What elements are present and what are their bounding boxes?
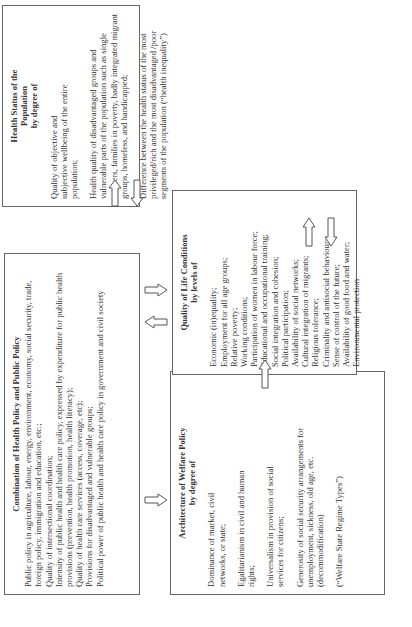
arrow-combination-to-health-icon bbox=[302, 217, 316, 247]
architecture-title-line: Architecture of Welfare Policy bbox=[177, 379, 187, 587]
qol-item: Social integration and cohesion; bbox=[270, 198, 280, 367]
qol-item: Employment for all age groups; bbox=[219, 198, 229, 367]
combination-title: Combination of Health Policy and Public … bbox=[11, 261, 21, 587]
qol-item: Educational and occupational training; bbox=[259, 198, 269, 367]
architecture-item: Dominance of market, civil networks, or … bbox=[206, 467, 226, 587]
architecture-item: Generosity of social security arrangemen… bbox=[295, 427, 326, 587]
arrow-quality-to-combination-icon bbox=[144, 283, 168, 297]
architecture-item: Egalitarianism in civil and human rights… bbox=[236, 467, 256, 587]
architecture-welfare-policy-box: Architecture of Welfare Policy by degree… bbox=[170, 371, 385, 595]
arrow-combination-to-quality-icon bbox=[144, 315, 168, 329]
health-status-title-line: Health Status of the bbox=[9, 13, 19, 199]
qol-item: Availability of social networks; bbox=[290, 198, 300, 367]
arrow-health-to-quality-icon bbox=[130, 179, 144, 207]
architecture-subtitle-line: by degree of bbox=[187, 379, 197, 587]
arrow-architecture-to-quality-icon bbox=[258, 359, 272, 389]
combination-item: Public policy in agriculture, labour, en… bbox=[23, 261, 43, 587]
combination-item: Quality of health care services (access,… bbox=[74, 261, 84, 587]
qol-item: Political participation; bbox=[280, 198, 290, 367]
arrow-quality-to-health-icon bbox=[108, 179, 122, 207]
health-status-box: Health Status of the Population by degre… bbox=[2, 5, 140, 207]
quality-of-life-subtitle-line: by levels of bbox=[189, 198, 199, 367]
qol-item: Economic (in)equality; bbox=[208, 198, 218, 367]
arrow-architecture-to-combination-icon bbox=[144, 493, 168, 507]
architecture-title: Architecture of Welfare Policy by degree… bbox=[177, 379, 197, 587]
combination-item: Quality of intersectional coordination; bbox=[44, 261, 54, 587]
qol-item: Participation of women in labour force; bbox=[249, 198, 259, 367]
qol-item: Relative poverty; bbox=[229, 198, 239, 367]
combination-policy-box: Combination of Health Policy and Public … bbox=[4, 253, 140, 595]
architecture-item: Universalism in provision of social serv… bbox=[265, 437, 285, 587]
health-status-title: Health Status of the Population by degre… bbox=[9, 13, 40, 199]
qol-item: Working conditions; bbox=[239, 198, 249, 367]
arrow-health-to-combination-icon bbox=[324, 217, 338, 247]
quality-of-life-title: Quality of Life Conditions by levels of bbox=[179, 198, 199, 367]
health-status-item: Health quality of disadvantaged groups a… bbox=[88, 13, 129, 199]
combination-item: Political power of public health and hea… bbox=[95, 261, 105, 587]
combination-item: Provisions for disadvantaged and vulnera… bbox=[84, 261, 94, 587]
welfare-health-diagram: Architecture of Welfare Policy by degree… bbox=[0, 0, 412, 627]
health-status-item: Quality of objective and subjective well… bbox=[49, 79, 80, 199]
health-status-subtitle-line: by degree of bbox=[29, 13, 39, 199]
health-status-title-line: Population bbox=[19, 13, 29, 199]
qol-item: Availability of good food and water; bbox=[341, 198, 351, 367]
combination-item: Intensity of public health and health ca… bbox=[54, 261, 74, 587]
quality-of-life-title-line: Quality of Life Conditions bbox=[179, 198, 189, 367]
health-status-item: Difference between the health status of … bbox=[138, 24, 169, 199]
qol-item: Environmental protection bbox=[351, 198, 361, 367]
architecture-item: (“Welfare State Regime Types”) bbox=[334, 379, 344, 587]
